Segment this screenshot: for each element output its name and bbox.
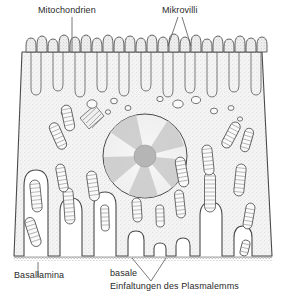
microvilli-group xyxy=(26,34,267,52)
cell-diagram-canvas xyxy=(0,0,284,308)
label-mikrovilli: Mikrovilli xyxy=(162,5,198,16)
leader-infoldings-b xyxy=(151,258,166,281)
label-infoldings-line2: Einfaltungen des Plasmalemms xyxy=(110,281,239,292)
basal-lamina xyxy=(14,257,272,261)
label-infoldings-line1: basale xyxy=(110,268,137,279)
label-mitochondrien: Mitochondrien xyxy=(38,5,96,16)
nucleus xyxy=(103,114,187,198)
label-basallamina: Basallamina xyxy=(14,270,64,281)
